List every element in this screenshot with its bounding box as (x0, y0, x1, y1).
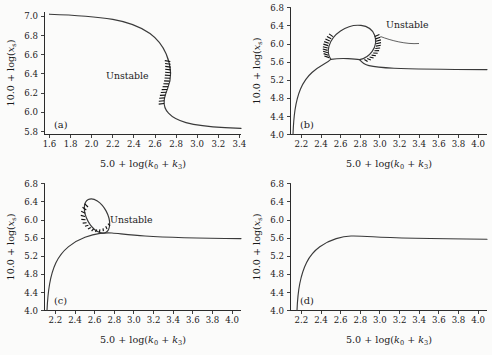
unstable-leader-line-b (381, 37, 420, 44)
panel-b-plot: 2.2 2.4 2.6 2.8 3.0 3.2 3.4 3.6 3.8 4.0 … (246, 0, 492, 177)
panel-b-xaxis-title: 5.0 + log(k0 + k3) (346, 158, 432, 171)
panel-d-yticklabels: 4.0 4.4 4.8 5.2 5.6 6.0 6.4 6.8 (270, 179, 284, 316)
svg-text:2.6: 2.6 (334, 139, 348, 149)
svg-text:3.2: 3.2 (393, 139, 407, 149)
panel-d-xaxis-title: 5.0 + log(k0 + k3) (346, 334, 432, 347)
panel-d-yticks (287, 184, 291, 311)
svg-text:3.6: 3.6 (432, 139, 446, 149)
svg-text:3.6: 3.6 (186, 315, 200, 325)
panel-b-upper-plateau (360, 60, 487, 70)
svg-text:4.0: 4.0 (225, 315, 239, 325)
svg-text:5.6: 5.6 (24, 233, 38, 243)
panel-a-yaxis-title: 10.0 + log(xs) (5, 40, 18, 107)
svg-text:3.0: 3.0 (373, 315, 387, 325)
axis-frame (45, 184, 242, 311)
svg-text:5.0 + log(k0 + k3): 5.0 + log(k0 + k3) (346, 158, 432, 171)
svg-text:3.4: 3.4 (166, 315, 180, 325)
panel-a-plot: 1.6 1.8 2.0 2.2 2.4 2.6 2.8 3.0 3.2 3.4 … (0, 0, 246, 177)
panel-d-main-branch (297, 236, 487, 311)
svg-text:2.2: 2.2 (106, 139, 120, 149)
panel-label-a: (a) (54, 119, 68, 130)
svg-text:3.0: 3.0 (127, 315, 141, 325)
svg-text:2.8: 2.8 (169, 139, 183, 149)
svg-text:3.2: 3.2 (211, 139, 225, 149)
panel-b-yticklabels: 4.0 4.4 4.8 5.2 5.6 6.0 6.4 6.8 (270, 3, 284, 140)
svg-text:3.8: 3.8 (452, 315, 466, 325)
svg-text:4.0: 4.0 (471, 315, 485, 325)
panel-a-xticks (50, 135, 240, 139)
panel-label-b: (b) (300, 119, 314, 130)
panel-c-main-branch (47, 233, 241, 311)
svg-text:2.4: 2.4 (314, 315, 328, 325)
svg-text:2.6: 2.6 (334, 315, 348, 325)
svg-text:6.0: 6.0 (270, 215, 284, 225)
panel-b-xticks (301, 135, 478, 139)
svg-text:5.2: 5.2 (270, 75, 284, 85)
svg-text:5.2: 5.2 (24, 251, 38, 261)
panel-d-xticklabels: 2.2 2.4 2.6 2.8 3.0 3.2 3.4 3.6 3.8 4.0 (294, 315, 485, 325)
svg-text:4.8: 4.8 (270, 269, 284, 279)
svg-text:2.2: 2.2 (48, 315, 62, 325)
svg-text:3.0: 3.0 (373, 139, 387, 149)
svg-text:2.0: 2.0 (85, 139, 99, 149)
svg-text:3.2: 3.2 (147, 315, 161, 325)
svg-text:2.8: 2.8 (107, 315, 121, 325)
svg-text:3.4: 3.4 (233, 139, 246, 149)
svg-text:10.0 + log(xs): 10.0 + log(xs) (251, 214, 264, 281)
svg-text:6.8: 6.8 (24, 31, 38, 41)
svg-text:4.0: 4.0 (270, 130, 284, 140)
panel-c-xticks (55, 311, 232, 315)
panel-a-xticklabels: 1.6 1.8 2.0 2.2 2.4 2.6 2.8 3.0 3.2 3.4 (43, 139, 246, 149)
svg-text:2.4: 2.4 (68, 315, 82, 325)
panel-label-c: (c) (54, 295, 67, 306)
svg-text:5.0 + log(k0 + k3): 5.0 + log(k0 + k3) (100, 334, 186, 347)
svg-text:1.8: 1.8 (64, 139, 78, 149)
svg-text:3.6: 3.6 (432, 315, 446, 325)
panel-a-yticklabels: 5.8 6.0 6.2 6.4 6.6 6.8 7.0 (24, 11, 38, 136)
panel-c-isola-hatching (81, 204, 110, 233)
svg-text:6.6: 6.6 (24, 50, 38, 60)
svg-text:6.4: 6.4 (270, 21, 284, 31)
panel-d-plot: 2.2 2.4 2.6 2.8 3.0 3.2 3.4 3.6 3.8 4.0 … (246, 178, 492, 355)
svg-text:2.6: 2.6 (88, 315, 102, 325)
panel-c-yticklabels: 4.0 4.4 4.8 5.2 5.6 6.0 6.4 6.8 (24, 179, 38, 316)
svg-text:2.4: 2.4 (127, 139, 141, 149)
svg-text:3.8: 3.8 (206, 315, 220, 325)
svg-text:6.2: 6.2 (24, 88, 38, 98)
svg-text:1.6: 1.6 (43, 139, 57, 149)
svg-text:3.4: 3.4 (412, 139, 426, 149)
panel-label-d: (d) (300, 295, 314, 306)
svg-text:4.8: 4.8 (24, 269, 38, 279)
svg-text:4.0: 4.0 (24, 306, 38, 316)
svg-text:2.2: 2.2 (294, 315, 308, 325)
svg-text:3.4: 3.4 (412, 315, 426, 325)
svg-text:2.8: 2.8 (353, 139, 367, 149)
panel-c-plot: 2.2 2.4 2.6 2.8 3.0 3.2 3.4 3.6 3.8 4.0 … (0, 178, 246, 355)
svg-text:4.4: 4.4 (270, 112, 284, 122)
svg-text:2.2: 2.2 (294, 139, 308, 149)
panel-d-yaxis-title: 10.0 + log(xs) (251, 214, 264, 281)
panel-d-xticks (301, 311, 478, 315)
svg-text:6.4: 6.4 (270, 197, 284, 207)
svg-text:4.0: 4.0 (471, 139, 485, 149)
panel-c-xaxis-title: 5.0 + log(k0 + k3) (100, 334, 186, 347)
svg-text:3.8: 3.8 (452, 139, 466, 149)
svg-text:5.2: 5.2 (270, 251, 284, 261)
svg-text:10.0 + log(xs): 10.0 + log(xs) (5, 214, 18, 281)
svg-text:6.4: 6.4 (24, 197, 38, 207)
panel-c-xticklabels: 2.2 2.4 2.6 2.8 3.0 3.2 3.4 3.6 3.8 4.0 (48, 315, 239, 325)
svg-text:4.0: 4.0 (270, 306, 284, 316)
svg-text:3.2: 3.2 (393, 315, 407, 325)
panel-c: 2.2 2.4 2.6 2.8 3.0 3.2 3.4 3.6 3.8 4.0 … (0, 178, 246, 355)
panel-b-unstable-hatching-left (323, 34, 333, 58)
panel-a: 1.6 1.8 2.0 2.2 2.4 2.6 2.8 3.0 3.2 3.4 … (0, 0, 246, 177)
panel-b-unstable-hatching-right (364, 35, 381, 62)
panel-c-yticks (41, 184, 45, 311)
panel-b-loop-lower-arc (331, 58, 360, 59)
svg-text:6.8: 6.8 (24, 179, 38, 189)
svg-text:5.0 + log(k0 + k3): 5.0 + log(k0 + k3) (100, 158, 186, 171)
svg-text:6.0: 6.0 (24, 107, 38, 117)
panel-a-xaxis-title: 5.0 + log(k0 + k3) (100, 158, 186, 171)
svg-text:6.8: 6.8 (270, 179, 284, 189)
svg-text:4.4: 4.4 (24, 288, 38, 298)
